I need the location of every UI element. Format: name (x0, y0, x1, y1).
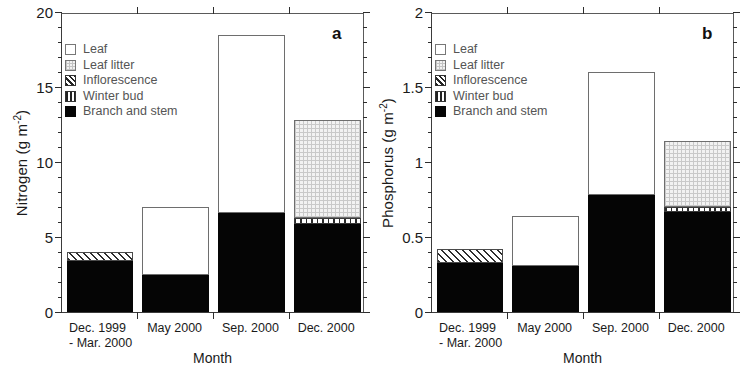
legend-a: LeafLeaf litterInflorescenceWinter budBr… (65, 42, 178, 120)
legend-item-leaf: Leaf (65, 42, 178, 58)
panel-letter-b: b (702, 24, 712, 44)
y-axis-minor-tick (58, 222, 62, 223)
x-axis-tick (507, 7, 508, 14)
x-axis-tick (137, 312, 138, 319)
y-axis-minor-tick (363, 252, 367, 253)
x-axis-tick-label: Dec. 2000 (288, 321, 364, 336)
legend-item-label: Leaf (453, 42, 477, 58)
x-axis-tick-label: May 2000 (137, 321, 213, 336)
y-axis-minor-tick (58, 252, 62, 253)
light-grid-square-icon (435, 60, 446, 71)
black-square-icon (435, 106, 446, 117)
y-axis-minor-tick (428, 177, 432, 178)
y-axis-minor-tick (58, 267, 62, 268)
y-axis-minor-tick (58, 132, 62, 133)
y-axis-minor-tick (363, 72, 367, 73)
y-axis-minor-tick (58, 27, 62, 28)
bar-segment-leaf (218, 35, 285, 214)
x-axis-tick-label-line: Dec. 1999 (61, 321, 137, 336)
bar-segment-branch (588, 195, 655, 312)
x-axis-tick (659, 312, 660, 319)
y-axis-minor-tick (363, 117, 367, 118)
x-axis-title-a: Month (61, 350, 364, 366)
x-axis-tick (659, 7, 660, 14)
vertical-lines-square-icon (65, 91, 76, 102)
x-axis-tick (137, 7, 138, 14)
x-axis-title-b: Month (431, 350, 734, 366)
y-axis-minor-tick (428, 192, 432, 193)
x-axis-tick-label-line: Dec. 2000 (658, 321, 734, 336)
y-axis-tick-label: 10 (36, 154, 53, 171)
legend-item-label: Winter bud (453, 89, 513, 105)
bar-stack (294, 14, 361, 312)
y-axis-minor-tick (363, 147, 367, 148)
vertical-lines-square-icon (435, 91, 446, 102)
y-axis-tick (55, 237, 62, 238)
y-axis-tick (55, 162, 62, 163)
x-axis-tick-label-line: May 2000 (507, 321, 583, 336)
white-square-icon (65, 44, 76, 55)
bar-segment-branch (294, 224, 361, 313)
y-axis-minor-tick (733, 192, 737, 193)
y-axis-tick-label: 2 (415, 4, 423, 21)
chart-panel-a: Nitrogen (g m-2) 05101520 a LeafLeaf lit… (0, 0, 369, 376)
y-axis-minor-tick (428, 222, 432, 223)
x-axis-tick (289, 312, 290, 319)
legend-item-label: Winter bud (83, 89, 143, 105)
y-axis-minor-tick (733, 297, 737, 298)
x-axis-tick (213, 312, 214, 319)
legend-item-litter: Leaf litter (435, 58, 548, 74)
legend-item-litter: Leaf litter (65, 58, 178, 74)
y-axis-minor-tick (428, 27, 432, 28)
y-axis-title-b: Phosphorus (g m-2) (378, 13, 400, 313)
legend-b: LeafLeaf litterInflorescenceWinter budBr… (435, 42, 548, 120)
y-axis-minor-tick (58, 147, 62, 148)
bar-segment-leaf (588, 72, 655, 195)
y-axis-minor-tick (58, 297, 62, 298)
legend-item-label: Leaf litter (453, 58, 504, 74)
y-axis-tick-label: 20 (36, 4, 53, 21)
y-axis-minor-tick (428, 132, 432, 133)
y-axis-minor-tick (363, 222, 367, 223)
y-axis-minor-tick (733, 207, 737, 208)
y-axis-minor-tick (428, 252, 432, 253)
y-axis-minor-tick (428, 207, 432, 208)
y-axis-minor-tick (58, 72, 62, 73)
x-axis-tick-label: May 2000 (507, 321, 583, 336)
y-axis-minor-tick (363, 297, 367, 298)
y-axis-minor-tick (733, 282, 737, 283)
y-axis-minor-tick (428, 297, 432, 298)
bar-segment-winterbud (294, 218, 361, 223)
legend-item-inflorescence: Inflorescence (435, 73, 548, 89)
x-axis-tick (289, 7, 290, 14)
x-axis-tick-label-line: Sep. 2000 (583, 321, 659, 336)
y-axis-tick (733, 237, 740, 238)
y-axis-minor-tick (58, 207, 62, 208)
y-axis-minor-tick (363, 267, 367, 268)
legend-item-branch: Branch and stem (65, 104, 178, 120)
bar-stack (588, 14, 655, 312)
y-axis-minor-tick (363, 102, 367, 103)
y-axis-minor-tick (733, 132, 737, 133)
diagonal-hatch-square-icon (65, 75, 76, 86)
x-axis-tick-label-line: Dec. 2000 (288, 321, 364, 336)
legend-item-label: Branch and stem (83, 104, 178, 120)
y-axis-tick (733, 162, 740, 163)
y-axis-tick (425, 312, 432, 313)
x-axis-tick-label: Sep. 2000 (583, 321, 659, 336)
bar-segment-branch (437, 263, 504, 313)
y-axis-minor-tick (733, 42, 737, 43)
legend-item-winterbud: Winter bud (65, 89, 178, 105)
y-axis-minor-tick (58, 57, 62, 58)
chart-panel-b: Phosphorus (g m-2) 00.511.52 b LeafLeaf … (370, 0, 739, 376)
y-axis-minor-tick (428, 102, 432, 103)
bar-segment-branch (512, 266, 579, 313)
y-axis-minor-tick (733, 102, 737, 103)
legend-item-label: Leaf (83, 42, 107, 58)
y-axis-tick (363, 312, 370, 313)
x-axis-tick-label: Dec. 1999- Mar. 2000 (61, 321, 137, 351)
bar-stack (664, 14, 731, 312)
y-axis-tick-label: 15 (36, 79, 53, 96)
y-axis-minor-tick (363, 57, 367, 58)
y-axis-minor-tick (733, 267, 737, 268)
